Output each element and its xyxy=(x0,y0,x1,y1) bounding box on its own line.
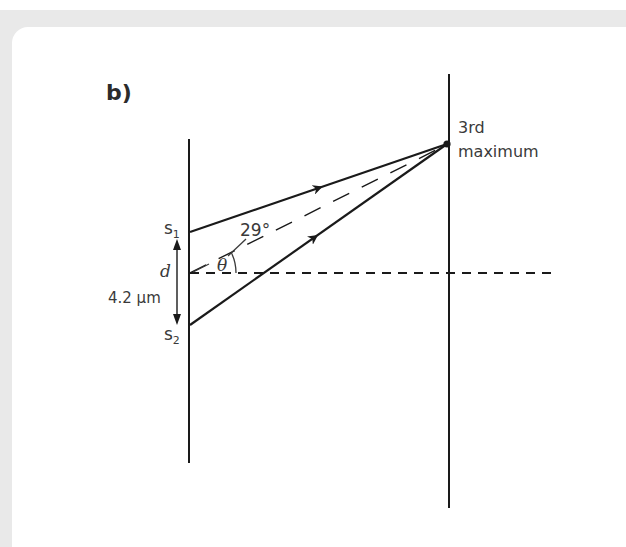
part-label: b) xyxy=(106,80,132,105)
ray-from-s2 xyxy=(190,144,447,325)
double-slit-diagram: b) s1 s2 d 4.2 μm 29° θ 3rd maximum xyxy=(0,0,626,547)
angle-symbol-label: θ xyxy=(217,255,227,275)
theta-arc-icon xyxy=(232,253,237,273)
d-leader-line xyxy=(193,264,209,272)
angle-value-label: 29° xyxy=(240,220,270,240)
separation-value-label: 4.2 μm xyxy=(108,289,161,307)
slit2-label: s2 xyxy=(164,324,180,347)
separation-arrow-down-icon xyxy=(173,314,181,325)
angle-dashed-line xyxy=(190,145,446,273)
maximum-label-line1: 3rd xyxy=(458,118,485,137)
slit1-label: s1 xyxy=(164,218,180,241)
maximum-point-icon xyxy=(443,140,450,147)
separation-symbol-label: d xyxy=(160,261,171,281)
angle-leader-line xyxy=(228,239,246,256)
maximum-label-line2: maximum xyxy=(458,142,539,161)
ray-from-s1 xyxy=(190,144,447,232)
